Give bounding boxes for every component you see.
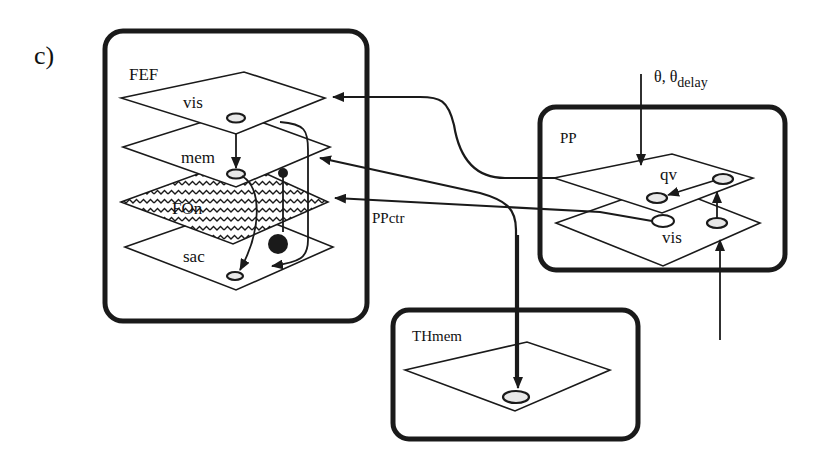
thmem-title: THmem: [412, 328, 462, 344]
pp-layer-vis-label: vis: [662, 228, 682, 247]
pp-module: PP vis qv: [540, 107, 785, 270]
fef-vis-unit: [227, 114, 245, 123]
fef-inhibit-to-mem-icon: [278, 168, 288, 178]
pp-qv-unit-right: [713, 174, 733, 184]
pp-title: PP: [560, 130, 577, 146]
diagram-canvas: c) FEF sac FOn mem vis PP: [0, 0, 828, 455]
fef-inhibit-to-sac-icon: [268, 234, 288, 254]
pp-layer-qv-label: qv: [660, 165, 678, 184]
pp-qv-unit-left: [647, 193, 667, 203]
fef-layer-mem-label: mem: [181, 148, 215, 167]
ppctr-label: PPctr: [372, 210, 405, 226]
pp-vis-unit: [707, 218, 727, 228]
fef-sac-unit: [227, 272, 243, 280]
theta-symbols: θ, θ: [654, 68, 677, 85]
fef-layer-vis-label: vis: [183, 93, 203, 112]
fef-module: FEF sac FOn mem vis: [105, 31, 367, 321]
panel-label: c): [34, 41, 54, 70]
pp-ctr-unit: [652, 215, 674, 227]
thmem-to-fef-mem-arrow: [320, 158, 516, 380]
fef-layer-sac-label: sac: [183, 247, 205, 266]
thmem-unit: [503, 391, 529, 403]
fef-title: FEF: [129, 65, 158, 84]
fef-layer-fon-label: FOn: [172, 199, 203, 218]
theta-subscript: delay: [677, 75, 707, 90]
theta-label: θ, θdelay: [654, 68, 708, 90]
